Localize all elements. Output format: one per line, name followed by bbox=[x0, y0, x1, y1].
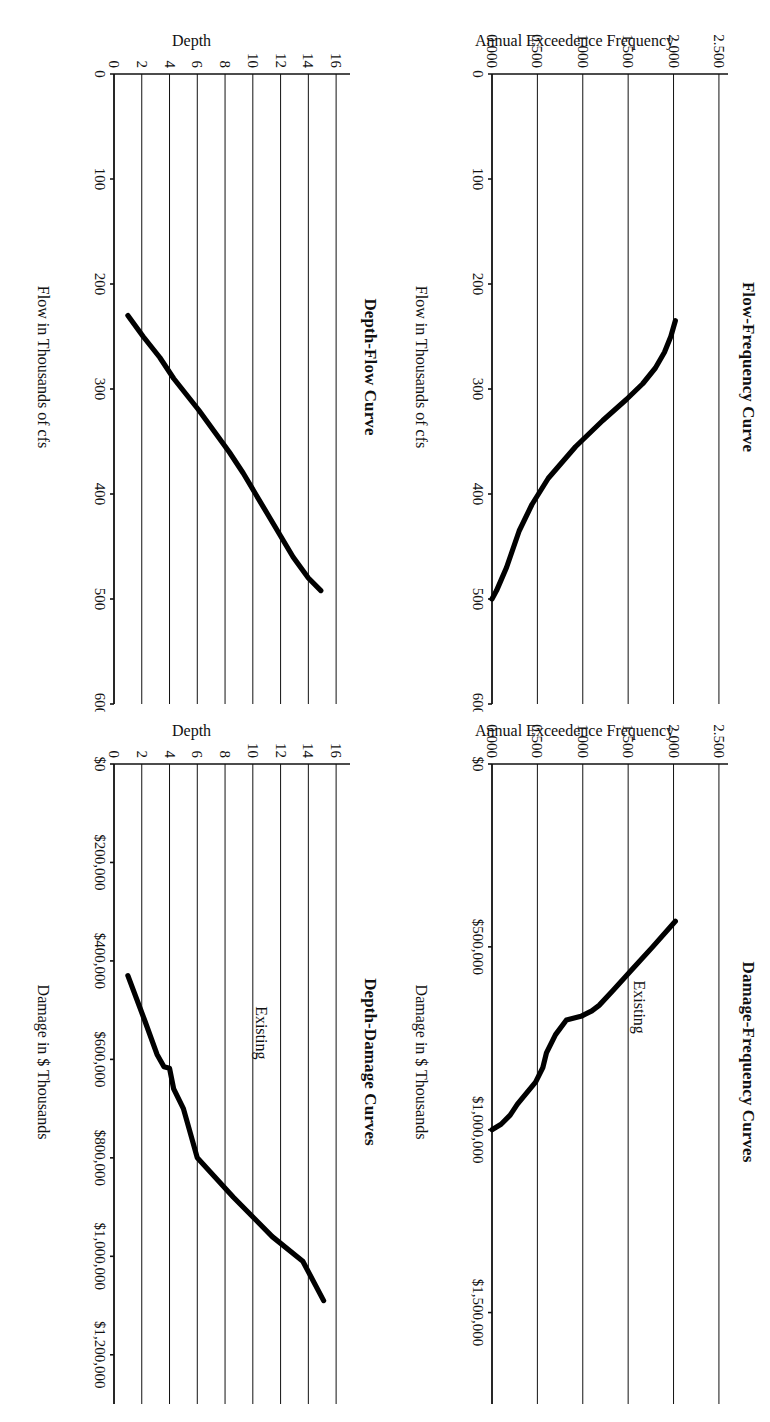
chart-title-damage-frequency: Damage-Frequency Curves bbox=[738, 712, 758, 1412]
chart-depth-flow-curve: Depth-Flow Curve 02468101214160100200300… bbox=[10, 22, 382, 712]
svg-text:2: 2 bbox=[134, 61, 150, 69]
svg-text:100: 100 bbox=[470, 168, 486, 191]
svg-text:14: 14 bbox=[300, 743, 316, 759]
svg-text:400: 400 bbox=[92, 483, 108, 506]
svg-text:$0: $0 bbox=[470, 757, 486, 772]
svg-text:$1,200,000: $1,200,000 bbox=[92, 1321, 108, 1389]
y-axis-title-depth-flow: Depth bbox=[172, 32, 211, 50]
svg-text:500: 500 bbox=[92, 588, 108, 611]
svg-text:400: 400 bbox=[470, 483, 486, 506]
svg-text:200: 200 bbox=[470, 273, 486, 296]
svg-text:16: 16 bbox=[328, 53, 344, 69]
svg-text:$600,000: $600,000 bbox=[92, 1031, 108, 1087]
chart-title-flow-frequency: Flow-Frequency Curve bbox=[738, 22, 758, 712]
chart-title-depth-damage: Depth-Damage Curves bbox=[360, 712, 380, 1412]
svg-text:Existing: Existing bbox=[630, 981, 648, 1034]
svg-text:600: 600 bbox=[470, 693, 486, 712]
y-axis-title-damage-frequency: Annual Exceedence Frequency bbox=[475, 722, 674, 740]
svg-text:$500,000: $500,000 bbox=[470, 919, 486, 975]
chart-title-depth-flow: Depth-Flow Curve bbox=[360, 22, 380, 712]
y-axis-title-depth-damage: Depth bbox=[172, 722, 211, 740]
rotated-page-wrapper: Flow-Frequency Curve 0.0000.5001.0001.50… bbox=[0, 0, 770, 1422]
svg-text:Existing: Existing bbox=[252, 1006, 270, 1059]
svg-text:4: 4 bbox=[162, 751, 178, 759]
plot-area-depth-flow: 02468101214160100200300400500600 bbox=[88, 22, 356, 712]
svg-text:0: 0 bbox=[106, 751, 122, 759]
svg-text:0: 0 bbox=[92, 70, 108, 78]
plot-svg-depth-flow: 02468101214160100200300400500600 bbox=[88, 22, 356, 712]
svg-text:6: 6 bbox=[189, 751, 205, 759]
plot-svg-flow-frequency: 0.0000.5001.0001.5002.0002.5000100200300… bbox=[466, 22, 734, 712]
x-axis-title-flow-frequency: Flow in Thousands of cfs bbox=[412, 22, 430, 712]
svg-text:4: 4 bbox=[162, 61, 178, 69]
chart-damage-frequency-curves: Damage-Frequency Curves 0.0000.5001.0001… bbox=[388, 712, 760, 1412]
svg-text:8: 8 bbox=[217, 751, 233, 759]
svg-text:10: 10 bbox=[245, 53, 261, 68]
svg-text:500: 500 bbox=[470, 588, 486, 611]
x-axis-title-damage-frequency: Damage in $ Thousands bbox=[412, 712, 430, 1412]
svg-text:300: 300 bbox=[470, 378, 486, 401]
plot-svg-damage-frequency: 0.0000.5001.0001.5002.0002.500$0$500,000… bbox=[466, 712, 734, 1412]
svg-text:12: 12 bbox=[273, 53, 289, 68]
svg-text:$800,000: $800,000 bbox=[92, 1130, 108, 1186]
x-axis-title-depth-flow: Flow in Thousands of cfs bbox=[34, 22, 52, 712]
chart-depth-damage-curves: Depth-Damage Curves 0246810121416$0$200,… bbox=[10, 712, 382, 1412]
plot-area-depth-damage: 0246810121416$0$200,000$400,000$600,000$… bbox=[88, 712, 356, 1412]
svg-text:$400,000: $400,000 bbox=[92, 933, 108, 989]
svg-text:2.500: 2.500 bbox=[711, 34, 727, 68]
plot-svg-depth-damage: 0246810121416$0$200,000$400,000$600,000$… bbox=[88, 712, 356, 1412]
svg-text:$0: $0 bbox=[92, 757, 108, 772]
svg-text:$1,000,000: $1,000,000 bbox=[470, 1096, 486, 1164]
svg-text:2.500: 2.500 bbox=[711, 724, 727, 758]
plot-area-flow-frequency: 0.0000.5001.0001.5002.0002.5000100200300… bbox=[466, 22, 734, 712]
y-axis-title-flow-frequency: Annual Exceedence Frequency bbox=[475, 32, 674, 50]
svg-text:100: 100 bbox=[92, 168, 108, 191]
svg-text:10: 10 bbox=[245, 743, 261, 758]
svg-text:$200,000: $200,000 bbox=[92, 834, 108, 890]
svg-text:14: 14 bbox=[300, 53, 316, 69]
svg-text:0: 0 bbox=[470, 70, 486, 78]
svg-text:8: 8 bbox=[217, 61, 233, 69]
svg-text:$1,500,000: $1,500,000 bbox=[470, 1279, 486, 1347]
x-axis-title-depth-damage: Damage in $ Thousands bbox=[34, 712, 52, 1412]
svg-text:600: 600 bbox=[92, 693, 108, 712]
plot-area-damage-frequency: 0.0000.5001.0001.5002.0002.500$0$500,000… bbox=[466, 712, 734, 1412]
svg-text:200: 200 bbox=[92, 273, 108, 296]
svg-text:16: 16 bbox=[328, 743, 344, 759]
svg-text:12: 12 bbox=[273, 743, 289, 758]
svg-text:$1,000,000: $1,000,000 bbox=[92, 1223, 108, 1291]
figure-grid: Flow-Frequency Curve 0.0000.5001.0001.50… bbox=[0, 0, 770, 1422]
svg-text:300: 300 bbox=[92, 378, 108, 401]
svg-text:0: 0 bbox=[106, 61, 122, 69]
chart-flow-frequency-curve: Flow-Frequency Curve 0.0000.5001.0001.50… bbox=[388, 22, 760, 712]
svg-text:6: 6 bbox=[189, 61, 205, 69]
svg-text:2: 2 bbox=[134, 751, 150, 759]
